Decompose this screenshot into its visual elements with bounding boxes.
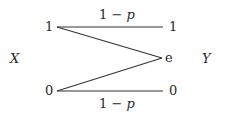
edge-0-to-e (57, 58, 162, 91)
output-node-1: 1 (169, 19, 177, 34)
edge-label-bottom: 1 − p (99, 96, 135, 111)
erasure-channel-diagram: X Y 1 0 1 e 0 1 − p 1 − p (0, 0, 225, 119)
output-node-erasure: e (165, 50, 173, 65)
output-node-0: 0 (169, 83, 177, 98)
input-variable-label: X (9, 51, 20, 66)
output-variable-label: Y (202, 51, 212, 66)
edge-1-to-e (57, 27, 162, 58)
input-node-1: 1 (45, 19, 53, 34)
edge-label-top: 1 − p (99, 7, 135, 22)
input-node-0: 0 (45, 83, 53, 98)
